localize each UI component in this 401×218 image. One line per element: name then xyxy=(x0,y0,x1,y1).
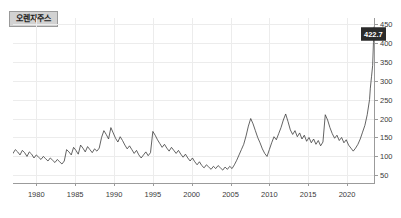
x-axis-line xyxy=(13,183,375,184)
x-axis-tick xyxy=(308,183,309,186)
y-axis-tick xyxy=(375,62,378,63)
last-value-badge[interactable]: 422.7 xyxy=(361,28,386,41)
y-axis-label: 250 xyxy=(380,95,393,104)
x-axis-label: 2000 xyxy=(183,190,200,199)
x-axis-tick xyxy=(36,183,37,186)
y-axis-tick xyxy=(375,137,378,138)
y-axis-tick xyxy=(375,43,378,44)
x-axis-label: 2005 xyxy=(222,190,239,199)
y-axis-label: 50 xyxy=(380,171,388,180)
x-axis-label: 1985 xyxy=(67,190,84,199)
y-axis-label: 300 xyxy=(380,76,393,85)
chart-container: 오렌지주스 5010015020025030035040045019801985… xyxy=(0,0,401,218)
y-axis-tick xyxy=(375,156,378,157)
x-axis-label: 2010 xyxy=(261,190,278,199)
y-axis-tick xyxy=(375,119,378,120)
x-axis-tick xyxy=(75,183,76,186)
y-axis-tick xyxy=(375,100,378,101)
y-axis-label: 200 xyxy=(380,114,393,123)
x-axis-tick xyxy=(192,183,193,186)
x-axis-tick xyxy=(347,183,348,186)
x-axis-tick xyxy=(269,183,270,186)
x-axis-label: 1980 xyxy=(28,190,45,199)
y-axis-tick xyxy=(375,175,378,176)
x-axis-tick xyxy=(153,183,154,186)
y-axis-tick xyxy=(375,81,378,82)
price-line-series xyxy=(13,18,375,183)
x-axis-label: 1995 xyxy=(144,190,161,199)
x-axis-label: 1990 xyxy=(106,190,123,199)
y-axis-label: 350 xyxy=(380,57,393,66)
x-axis-tick xyxy=(114,183,115,186)
x-axis-tick xyxy=(231,183,232,186)
x-axis-label: 2020 xyxy=(339,190,356,199)
y-axis-label: 100 xyxy=(380,152,393,161)
x-axis-label: 2015 xyxy=(300,190,317,199)
y-axis-label: 150 xyxy=(380,133,393,142)
y-axis-tick xyxy=(375,24,378,25)
